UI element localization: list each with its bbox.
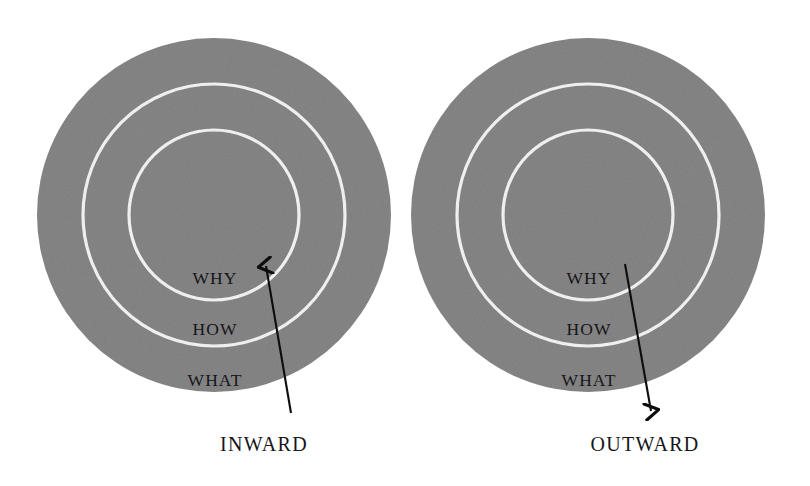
panel-outward: WHY HOW WHAT OUTWARD xyxy=(411,38,765,455)
ring-label-how-outward: HOW xyxy=(566,319,611,339)
ring-label-how-inward: HOW xyxy=(192,319,237,339)
panel-inward: WHY HOW WHAT INWARD xyxy=(37,38,391,455)
ring-label-why-outward: WHY xyxy=(566,268,611,288)
caption-inward: INWARD xyxy=(220,433,308,455)
ring-label-what-outward: WHAT xyxy=(562,370,617,390)
ring-label-why-inward: WHY xyxy=(192,268,237,288)
golden-circle-diagram: WHY HOW WHAT INWARD WHY HOW WHAT OUTWARD xyxy=(0,0,810,486)
diagram-canvas: WHY HOW WHAT INWARD WHY HOW WHAT OUTWARD xyxy=(0,0,810,486)
ring-label-what-inward: WHAT xyxy=(188,370,243,390)
caption-outward: OUTWARD xyxy=(590,433,699,455)
